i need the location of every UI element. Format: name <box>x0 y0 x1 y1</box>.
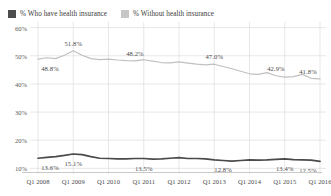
y-axis: 10%20%30%40%50%60% <box>0 22 30 174</box>
data-point-label: 51.8% <box>64 39 82 46</box>
y-tick-label: 60% <box>15 24 27 31</box>
x-tick-label: Q1 2013 <box>203 178 226 186</box>
legend-label: % Who have health insurance <box>20 10 107 18</box>
x-axis-rule <box>22 172 322 173</box>
data-point-label: 48.2% <box>126 49 144 56</box>
data-point-label: 13.5% <box>135 164 153 171</box>
x-tick-label: Q1 2015 <box>273 178 296 186</box>
data-point-label: 47.0% <box>205 53 223 60</box>
x-tick-label: Q1 2009 <box>62 178 85 186</box>
data-point-label: 42.9% <box>267 64 285 71</box>
data-point-label: 41.8% <box>299 67 317 74</box>
data-point-label: 13.4% <box>276 164 294 171</box>
x-tick-label: Q1 2010 <box>97 178 120 186</box>
y-tick-label: 20% <box>15 137 27 144</box>
plot-area: 10%20%30%40%50%60% 48.8%51.8%48.2%47.0%4… <box>0 22 330 174</box>
y-tick-label: 50% <box>15 52 27 59</box>
x-tick-label: Q1 2014 <box>238 178 261 186</box>
legend-label: % Without health insurance <box>133 10 214 18</box>
x-axis: Q1 2008Q1 2009Q1 2010Q1 2011Q1 2012Q1 20… <box>30 174 326 194</box>
y-tick-label: 30% <box>15 109 27 116</box>
x-tick-label: Q1 2012 <box>168 178 191 186</box>
square-swatch-icon <box>8 10 16 18</box>
chart-legend: % Who have health insurance % Without he… <box>8 6 214 22</box>
y-tick-label: 40% <box>15 80 27 87</box>
legend-item-without-insurance[interactable]: % Without health insurance <box>121 10 214 18</box>
data-point-label: 15.1% <box>64 160 82 167</box>
square-swatch-icon <box>121 10 129 18</box>
data-point-label: 48.8% <box>41 65 59 72</box>
y-tick-label: 10% <box>15 165 27 172</box>
x-tick-label: Q1 2008 <box>27 178 50 186</box>
data-point-label: 13.6% <box>41 164 59 171</box>
x-tick-label: Q1 2016 <box>309 178 331 186</box>
legend-item-have-insurance[interactable]: % Who have health insurance <box>8 10 107 18</box>
x-tick-label: Q1 2011 <box>132 178 155 186</box>
